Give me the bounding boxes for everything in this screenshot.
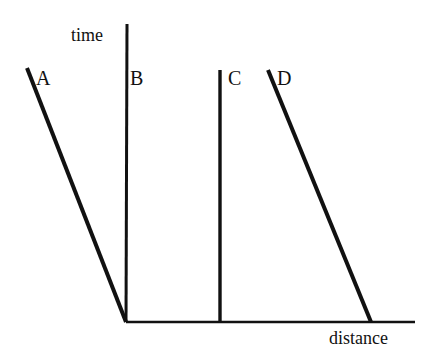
time-distance-figure: time distance A B C D [0,0,437,363]
worldline-a-label: A [36,68,50,88]
time-axis-line [126,24,127,322]
worldline-c-label: C [228,68,241,88]
worldline-b-label: B [130,68,143,88]
distance-axis-label: distance [329,329,388,347]
worldline-d-label: D [277,68,291,88]
plot-canvas [0,0,437,363]
time-axis-label: time [71,26,103,44]
